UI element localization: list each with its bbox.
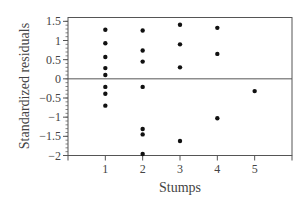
x-tick-label: 4	[214, 162, 220, 176]
data-point	[140, 132, 144, 136]
y-axis: 1.510.50−0.5−1−1.5−2	[39, 14, 68, 162]
y-tick-label: 1.5	[46, 14, 61, 28]
data-point	[103, 73, 107, 77]
x-tick-label: 1	[102, 162, 108, 176]
y-axis-title: Standardized residuals	[17, 23, 32, 149]
data-point	[103, 66, 107, 70]
data-point	[140, 152, 144, 156]
data-point	[140, 85, 144, 89]
y-tick-label: −1.5	[39, 129, 61, 143]
y-tick-label: 0	[55, 72, 61, 86]
data-point	[215, 52, 219, 56]
data-point	[140, 48, 144, 52]
data-point	[103, 28, 107, 32]
data-point	[103, 85, 107, 89]
data-point	[103, 92, 107, 96]
data-point	[140, 59, 144, 63]
x-tick-label: 2	[140, 162, 146, 176]
x-tick-label: 5	[252, 162, 258, 176]
plot-frame	[68, 18, 292, 156]
data-point	[178, 65, 182, 69]
data-point	[178, 23, 182, 27]
x-tick-label: 3	[177, 162, 183, 176]
data-point	[140, 127, 144, 131]
data-point	[103, 103, 107, 107]
data-point	[178, 42, 182, 46]
y-tick-label: 1	[55, 34, 61, 48]
scatter-chart: 1.510.50−0.5−1−1.5−2 12345 Stumps Standa…	[0, 0, 306, 205]
data-point	[215, 26, 219, 30]
x-axis: 12345	[68, 156, 292, 176]
y-tick-label: −0.5	[39, 91, 61, 105]
data-point	[103, 41, 107, 45]
x-axis-title: Stumps	[159, 180, 201, 195]
y-tick-label: −2	[48, 149, 61, 163]
y-tick-label: −1	[48, 110, 61, 124]
data-point	[140, 28, 144, 32]
data-points	[103, 23, 257, 157]
plot-border	[68, 18, 292, 156]
data-point	[252, 89, 256, 93]
data-point	[103, 55, 107, 59]
data-point	[215, 116, 219, 120]
y-tick-label: 0.5	[46, 53, 61, 67]
data-point	[178, 139, 182, 143]
